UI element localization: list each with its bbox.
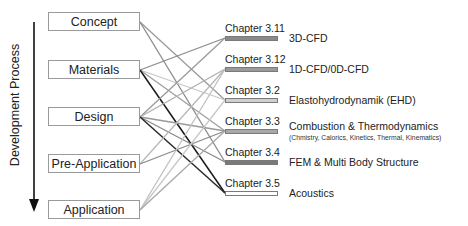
connection-line xyxy=(140,38,225,117)
topic-label-3d-cfd: 3D-CFD xyxy=(289,32,328,44)
connection-line xyxy=(140,131,225,210)
topic-sublabel-combustion: (Chmistry, Calorics, Kinetics, Thermal, … xyxy=(289,134,441,141)
chapter-bar-3-2[interactable] xyxy=(225,98,278,103)
chapter-label-3-2: Chapter 3.2 xyxy=(225,84,280,96)
connection-line xyxy=(140,69,225,117)
stage-box-design[interactable]: Design xyxy=(48,107,140,126)
connection-line xyxy=(140,70,225,131)
connection-line xyxy=(140,131,225,164)
connection-line xyxy=(140,69,225,210)
chapter-bar-3-4[interactable] xyxy=(225,160,278,165)
stage-box-materials[interactable]: Materials xyxy=(48,60,140,79)
chapter-label-3-3: Chapter 3.3 xyxy=(225,115,280,127)
stage-label: Application xyxy=(63,203,124,217)
topic-label-acoustics: Acoustics xyxy=(289,187,334,199)
chapter-bar-3-12[interactable] xyxy=(225,67,278,72)
stage-box-application[interactable]: Application xyxy=(48,200,140,219)
stage-box-pre-application[interactable]: Pre-Application xyxy=(48,154,140,173)
chapter-bar-3-3[interactable] xyxy=(225,129,278,134)
connection-line xyxy=(140,70,225,100)
stage-label: Design xyxy=(75,110,114,124)
topic-label-fem: FEM & Multi Body Structure xyxy=(289,156,419,168)
stage-label: Pre-Application xyxy=(52,157,137,171)
chapter-label-3-11: Chapter 3.11 xyxy=(225,22,285,34)
chapter-label-3-12: Chapter 3.12 xyxy=(225,53,286,65)
connection-group xyxy=(140,22,225,210)
topic-label-1d-cfd: 1D-CFD/0D-CFD xyxy=(289,63,369,75)
chapter-bar-3-5[interactable] xyxy=(225,191,278,196)
stage-box-concept[interactable]: Concept xyxy=(48,12,140,31)
chapter-label-3-4: Chapter 3.4 xyxy=(225,146,280,158)
topic-label-ehd: Elastohydrodynamik (EHD) xyxy=(289,94,416,106)
stage-label: Materials xyxy=(69,63,120,77)
topic-label-combustion: Combustion & Thermodynamics xyxy=(289,120,438,132)
chapter-bar-3-11[interactable] xyxy=(225,36,278,41)
chapter-label-3-5: Chapter 3.5 xyxy=(225,177,280,189)
stage-label: Concept xyxy=(71,15,118,29)
arrow-down-icon xyxy=(29,199,39,212)
